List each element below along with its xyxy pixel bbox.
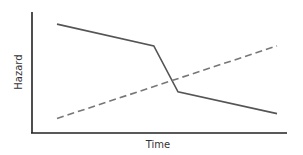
- solid-hazard-line: [57, 24, 277, 114]
- y-axis-label: Hazard: [13, 54, 24, 89]
- hazard-time-chart: Time Hazard: [0, 0, 303, 155]
- dashed-hazard-line: [57, 46, 277, 119]
- x-axis-label: Time: [145, 139, 170, 150]
